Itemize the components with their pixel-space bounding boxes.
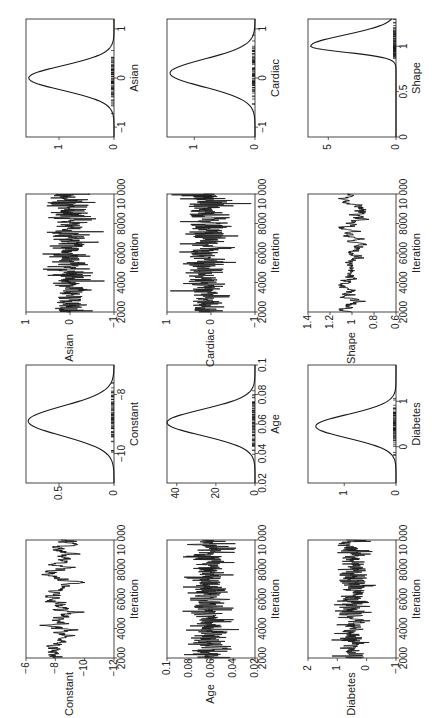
plot-frame xyxy=(26,540,114,658)
plot-frame xyxy=(167,19,255,137)
x-axis-label: Age xyxy=(269,414,281,434)
plot-frame xyxy=(308,365,396,483)
y-axis-label: Asian xyxy=(63,334,75,362)
y-tick-label: 0 xyxy=(249,490,260,496)
y-tick-label: 20 xyxy=(210,487,221,499)
y-tick-label: 0 xyxy=(108,144,119,150)
x-tick-label: 0.5 xyxy=(398,84,409,98)
x-tick-label: 0 xyxy=(398,443,409,449)
x-tick-label: 0.04 xyxy=(257,443,268,463)
y-tick-label: 0.6 xyxy=(390,315,401,329)
y-tick-label: 1.4 xyxy=(302,315,313,329)
x-tick-label: 8000 xyxy=(116,212,127,235)
panel-trace-diabetes: 200040006000800010 000Iteration−1012Diab… xyxy=(302,524,422,715)
y-tick-label: 0.8 xyxy=(368,315,379,329)
density-curve xyxy=(311,19,396,137)
x-tick-label: 10 000 xyxy=(257,524,268,555)
y-tick-label: 1 xyxy=(161,319,172,325)
y-tick-label: 0 xyxy=(360,665,371,671)
y-tick-label: 40 xyxy=(170,487,181,499)
x-axis-label: Iteration xyxy=(269,579,281,619)
x-tick-label: 8000 xyxy=(116,558,127,581)
y-tick-label: 0 xyxy=(249,144,260,150)
x-axis-label: Diabetes xyxy=(410,402,422,446)
panel-density-shape: 00.51Shape05 xyxy=(308,19,422,150)
x-tick-label: 4000 xyxy=(257,617,268,640)
x-tick-label: 0.1 xyxy=(257,358,268,372)
density-curve xyxy=(167,365,255,483)
plot-frame xyxy=(26,365,114,483)
y-tick-label: 2 xyxy=(302,665,313,671)
panel-density-asian: −101Asian01 xyxy=(26,19,140,150)
y-axis-label: Cardiac xyxy=(204,329,216,367)
density-curve xyxy=(316,365,396,483)
density-curve xyxy=(28,365,114,483)
y-tick-label: 0.08 xyxy=(183,658,194,678)
y-tick-label: 0.06 xyxy=(205,658,216,678)
y-tick-label: 0 xyxy=(64,319,75,325)
y-tick-label: 1 xyxy=(331,665,342,671)
y-tick-label: 0.5 xyxy=(53,486,64,500)
x-tick-label: 10 000 xyxy=(398,178,409,209)
x-tick-label: 4000 xyxy=(398,271,409,294)
x-tick-label: 6000 xyxy=(398,241,409,264)
x-tick-label: 10 000 xyxy=(116,178,127,209)
y-tick-label: 0 xyxy=(108,490,119,496)
y-tick-label: −1 xyxy=(249,316,260,328)
x-tick-label: 1 xyxy=(257,26,268,32)
x-tick-label: −1 xyxy=(257,121,268,133)
y-tick-label: 0 xyxy=(390,144,401,150)
x-axis-label: Iteration xyxy=(128,233,140,273)
trace-line xyxy=(183,540,239,658)
y-axis-label: Constant xyxy=(63,672,75,716)
panel-trace-constant: 200040006000800010 000Iteration−6−8−10−1… xyxy=(20,524,140,716)
x-tick-label: 10 000 xyxy=(398,524,409,555)
y-tick-label: −10 xyxy=(78,659,89,676)
trace-line xyxy=(40,540,85,658)
x-tick-label: 10 000 xyxy=(257,178,268,209)
trace-line xyxy=(43,194,105,312)
x-tick-label: 6000 xyxy=(398,587,409,610)
y-tick-label: 1 xyxy=(346,319,357,325)
x-axis-label: Constant xyxy=(128,402,140,446)
trace-line xyxy=(338,194,369,312)
density-curve xyxy=(170,19,255,137)
panel-trace-asian: 200040006000800010 000Iteration−101Asian xyxy=(20,178,140,361)
x-tick-label: 4000 xyxy=(398,617,409,640)
x-tick-label: 0 xyxy=(398,134,409,140)
x-axis-label: Shape xyxy=(410,62,422,94)
x-tick-label: 0 xyxy=(257,75,268,81)
x-tick-label: 1 xyxy=(398,398,409,404)
x-tick-label: 8000 xyxy=(398,558,409,581)
x-tick-label: 6000 xyxy=(116,241,127,264)
x-tick-label: 4000 xyxy=(257,271,268,294)
x-tick-label: 8000 xyxy=(398,212,409,235)
panel-density-age: 0.020.040.060.080.1Age02040 xyxy=(167,358,281,499)
x-tick-label: −10 xyxy=(116,445,127,462)
y-tick-label: −1 xyxy=(390,662,401,674)
x-tick-label: 0.08 xyxy=(257,384,268,404)
density-curve xyxy=(29,19,114,137)
y-tick-label: −1 xyxy=(108,316,119,328)
plot-frame xyxy=(26,19,114,137)
x-tick-label: 6000 xyxy=(257,587,268,610)
x-axis-label: Iteration xyxy=(410,233,422,273)
x-tick-label: −1 xyxy=(116,121,127,133)
y-tick-label: 0 xyxy=(390,490,401,496)
x-axis-label: Iteration xyxy=(410,579,422,619)
y-tick-label: 1 xyxy=(53,144,64,150)
panel-trace-age: 200040006000800010 000Iteration0.020.040… xyxy=(161,524,281,704)
panel-density-diabetes: 01Diabetes01 xyxy=(308,365,422,496)
x-tick-label: −8 xyxy=(116,388,127,400)
y-tick-label: 1.2 xyxy=(324,315,335,329)
x-axis-label: Iteration xyxy=(269,233,281,273)
plot-frame xyxy=(167,365,255,483)
y-axis-label: Age xyxy=(204,684,216,704)
x-axis-label: Iteration xyxy=(128,579,140,619)
x-tick-label: 6000 xyxy=(257,241,268,264)
x-axis-label: Cardiac xyxy=(269,59,281,97)
panel-trace-cardiac: 200040006000800010 000Iteration−101Cardi… xyxy=(161,178,281,367)
x-tick-label: 8000 xyxy=(257,558,268,581)
trace-line xyxy=(170,194,251,312)
panel-density-cardiac: −101Cardiac01 xyxy=(167,19,281,150)
